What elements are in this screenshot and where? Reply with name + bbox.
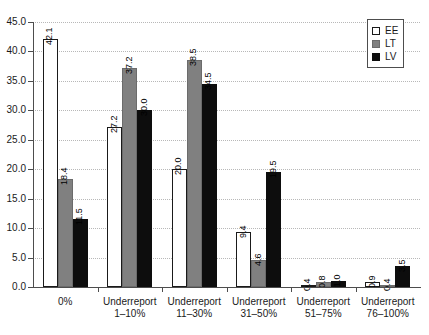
x-axis-category-line: 1–10% xyxy=(98,308,163,320)
bar-value-label: 1.0 xyxy=(333,275,342,288)
bar-value-label: 19.5 xyxy=(269,161,278,179)
gridline xyxy=(33,81,420,82)
bar-lv-group-3 xyxy=(202,84,217,287)
y-axis-label: 20.0 xyxy=(0,164,26,174)
gridline xyxy=(33,258,420,259)
bar-value-label: 9.4 xyxy=(239,225,248,238)
x-axis-category-label: Underreport51–75% xyxy=(291,296,356,320)
y-axis-line xyxy=(33,22,34,288)
bar-ee-group-3 xyxy=(172,169,187,287)
legend-swatch-lt-icon xyxy=(372,40,380,48)
x-axis-separator xyxy=(98,287,99,292)
bar-lt-group-1 xyxy=(58,179,73,287)
gridline xyxy=(33,228,420,229)
x-axis-category-label: Underreport11–30% xyxy=(162,296,227,320)
x-axis-category-line: 31–50% xyxy=(227,308,292,320)
bar-value-label: 0.4 xyxy=(303,278,312,291)
y-axis-label: 5.0 xyxy=(0,253,26,263)
bar-lt-group-3 xyxy=(187,60,202,287)
bar-value-label: 3.5 xyxy=(398,260,407,273)
bar-lt-group-2 xyxy=(122,68,137,287)
bar-lv-group-1 xyxy=(73,219,88,287)
bar-value-label: 11.5 xyxy=(75,208,84,225)
bar-value-label: 34.5 xyxy=(204,72,213,90)
bar-value-label: 0.9 xyxy=(368,275,377,288)
gridline xyxy=(33,199,420,200)
x-axis-category-line: Underreport xyxy=(227,296,292,308)
bar-value-label: 30.0 xyxy=(140,99,149,117)
bar-lv-group-4 xyxy=(266,172,281,287)
y-axis-label: 40.0 xyxy=(0,46,26,56)
x-axis-category-line: 0% xyxy=(33,296,98,308)
bar-ee-group-1 xyxy=(43,39,58,287)
legend-swatch-ee-icon xyxy=(372,27,380,35)
y-axis-label: 10.0 xyxy=(0,223,26,233)
bar-value-label: 0.4 xyxy=(383,278,392,291)
legend-item-ee: EE xyxy=(372,24,398,37)
x-axis-separator xyxy=(162,287,163,292)
bar-ee-group-4 xyxy=(236,232,251,287)
y-axis-label: 25.0 xyxy=(0,135,26,145)
y-axis-label: 0.0 xyxy=(0,282,26,292)
x-axis-category-line: 76–100% xyxy=(356,308,421,320)
legend-label-lt: LT xyxy=(385,39,396,49)
legend-label-ee: EE xyxy=(385,26,398,36)
bar-value-label: 18.4 xyxy=(60,167,69,185)
gridline xyxy=(33,22,420,23)
x-axis-separator xyxy=(291,287,292,292)
bar-value-label: 27.2 xyxy=(110,115,119,133)
x-axis-separator xyxy=(227,287,228,292)
x-axis-category-label: 0% xyxy=(33,296,98,308)
bar-lv-group-2 xyxy=(137,110,152,287)
legend-label-lv: LV xyxy=(385,52,397,62)
bar-value-label: 4.6 xyxy=(254,253,263,266)
x-axis-category-line: Underreport xyxy=(98,296,163,308)
plot-area: 42.118.411.527.237.230.020.038.534.59.44… xyxy=(33,22,420,287)
x-axis-category-label: Underreport76–100% xyxy=(356,296,421,320)
gridline xyxy=(33,51,420,52)
legend-item-lt: LT xyxy=(372,37,398,50)
bar-chart: 0.05.010.015.020.025.030.035.040.045.0 4… xyxy=(0,0,429,335)
x-axis-separator xyxy=(356,287,357,292)
bar-value-label: 38.5 xyxy=(189,49,198,67)
legend-swatch-lv-icon xyxy=(372,53,380,61)
bar-value-label: 42.1 xyxy=(45,28,54,46)
bar-ee-group-2 xyxy=(107,127,122,287)
y-axis-label: 30.0 xyxy=(0,105,26,115)
gridline xyxy=(33,140,420,141)
y-axis-label: 35.0 xyxy=(0,76,26,86)
x-axis-category-line: Underreport xyxy=(291,296,356,308)
x-axis-category-line: 11–30% xyxy=(162,308,227,320)
bar-value-label: 37.2 xyxy=(125,56,134,74)
gridline xyxy=(33,169,420,170)
bar-value-label: 20.0 xyxy=(174,158,183,176)
gridline xyxy=(33,110,420,111)
x-axis-category-label: Underreport31–50% xyxy=(227,296,292,320)
legend-item-lv: LV xyxy=(372,50,398,63)
x-axis-category-label: Underreport1–10% xyxy=(98,296,163,320)
legend: EE LT LV xyxy=(367,19,404,68)
y-axis-label: 45.0 xyxy=(0,17,26,27)
y-axis-label: 15.0 xyxy=(0,194,26,204)
x-axis-category-line: Underreport xyxy=(356,296,421,308)
x-axis-category-line: Underreport xyxy=(162,296,227,308)
x-axis-category-line: 51–75% xyxy=(291,308,356,320)
